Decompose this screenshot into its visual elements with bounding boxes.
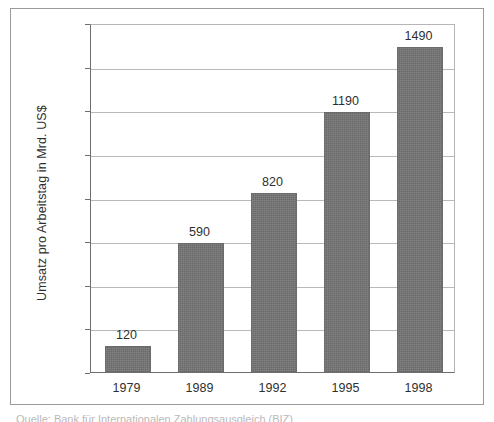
y-tick-mark bbox=[85, 286, 90, 287]
bar-value-label: 590 bbox=[189, 225, 210, 239]
bar-value-label: 820 bbox=[262, 175, 283, 189]
y-tick-mark bbox=[85, 199, 90, 200]
y-tick-mark bbox=[85, 111, 90, 112]
plot-area bbox=[90, 24, 455, 373]
bar-value-label: 1190 bbox=[332, 94, 359, 108]
bar-value-label: 120 bbox=[116, 328, 137, 342]
y-tick-mark bbox=[85, 329, 90, 330]
bar bbox=[178, 243, 224, 372]
bar-chart-figure: Umsatz pro Arbeitstag in Mrd. US$ 020040… bbox=[0, 0, 494, 422]
y-tick-mark bbox=[85, 373, 90, 374]
bar bbox=[397, 47, 443, 372]
x-tick-label: 1979 bbox=[113, 381, 141, 395]
y-tick-mark bbox=[85, 24, 90, 25]
x-tick-label: 1989 bbox=[186, 381, 214, 395]
figure-caption: Quelle: Bank für Internationalen Zahlung… bbox=[16, 414, 293, 422]
y-tick-mark bbox=[85, 242, 90, 243]
x-tick-label: 1992 bbox=[259, 381, 287, 395]
bar bbox=[251, 193, 297, 372]
bar bbox=[105, 346, 151, 372]
y-tick-mark bbox=[85, 68, 90, 69]
x-tick-label: 1998 bbox=[405, 381, 433, 395]
y-axis-title: Umsatz pro Arbeitstag in Mrd. US$ bbox=[35, 38, 49, 368]
y-tick-mark bbox=[85, 155, 90, 156]
bar bbox=[324, 112, 370, 372]
x-tick-label: 1995 bbox=[332, 381, 360, 395]
bar-value-label: 1490 bbox=[405, 29, 433, 43]
